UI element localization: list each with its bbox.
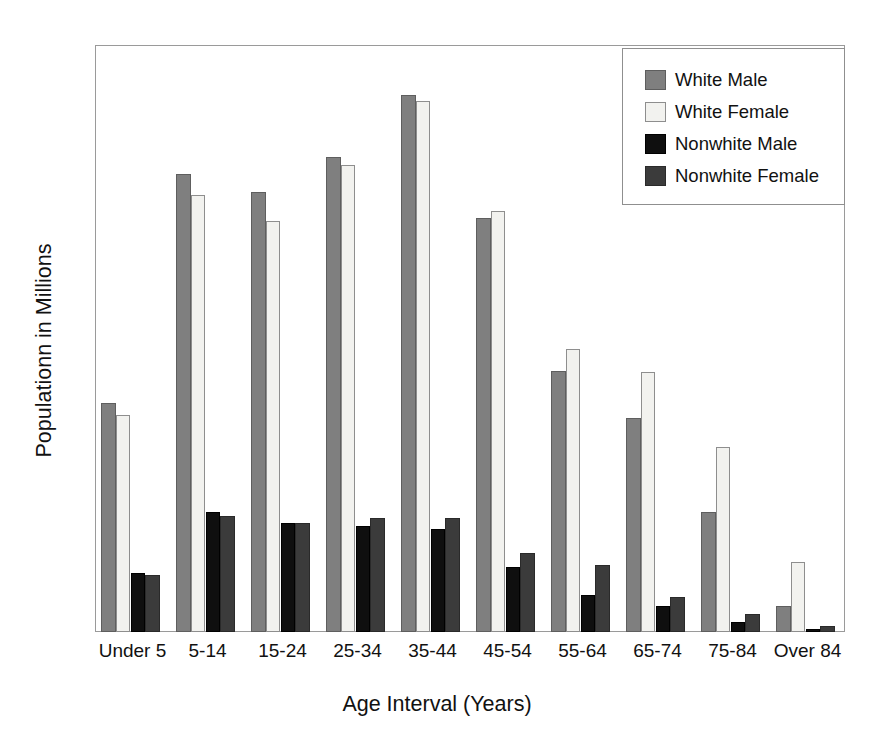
bar — [731, 622, 746, 632]
bar — [266, 221, 281, 632]
bar — [416, 101, 431, 632]
legend-item: Nonwhite Female — [645, 161, 819, 191]
bar — [806, 629, 821, 632]
legend-swatch-icon — [645, 102, 666, 122]
bar — [656, 606, 671, 632]
legend-swatch-icon — [645, 134, 666, 154]
bar — [206, 512, 221, 632]
bar — [820, 626, 835, 632]
bar — [641, 372, 656, 632]
bar — [670, 597, 685, 632]
bar — [551, 371, 566, 632]
bar — [220, 516, 235, 632]
bar — [281, 523, 296, 632]
bar — [295, 523, 310, 632]
legend-item: Nonwhite Male — [645, 129, 797, 159]
y-axis-title: Populationn in Millions — [32, 111, 57, 591]
bar — [626, 418, 641, 632]
bar — [116, 415, 131, 632]
bar — [476, 218, 491, 632]
bar — [491, 211, 506, 632]
bar — [251, 192, 266, 632]
bar — [131, 573, 146, 632]
bar — [791, 562, 806, 632]
bar — [176, 174, 191, 632]
bar-chart-figure: Populationn in Millions 05101520 Under 5… — [0, 0, 874, 742]
bar — [745, 614, 760, 632]
x-axis-title: Age Interval (Years) — [0, 692, 874, 717]
bar — [520, 553, 535, 632]
bar — [341, 165, 356, 632]
legend-item: White Male — [645, 65, 768, 95]
bar — [326, 157, 341, 632]
legend-label: White Male — [675, 69, 768, 91]
legend-swatch-icon — [645, 166, 666, 186]
bar — [401, 95, 416, 632]
legend: White MaleWhite FemaleNonwhite MaleNonwh… — [622, 48, 845, 205]
bar — [145, 575, 160, 632]
legend-item: White Female — [645, 97, 789, 127]
bar — [581, 595, 596, 632]
bar — [101, 403, 116, 632]
bar — [431, 529, 446, 632]
x-tick-label: Over 84 — [752, 641, 863, 661]
bar — [356, 526, 371, 632]
legend-label: White Female — [675, 101, 789, 123]
bar — [191, 195, 206, 632]
bar — [776, 606, 791, 632]
bar — [370, 518, 385, 632]
bar — [445, 518, 460, 632]
bar — [595, 565, 610, 633]
bar — [701, 512, 716, 632]
bar — [566, 349, 581, 632]
bar — [506, 567, 521, 632]
legend-label: Nonwhite Male — [675, 133, 797, 155]
legend-label: Nonwhite Female — [675, 165, 819, 187]
bar — [716, 447, 731, 632]
legend-swatch-icon — [645, 70, 666, 90]
